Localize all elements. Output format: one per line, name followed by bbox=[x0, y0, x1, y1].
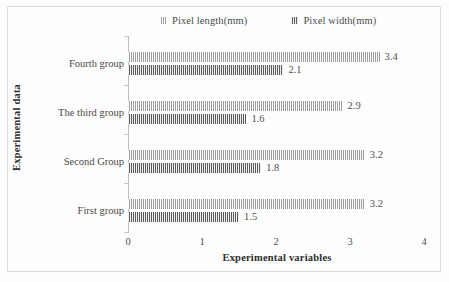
legend-item-pixel-width: Pixel width(mm) bbox=[291, 15, 376, 26]
legend-label-pixel-length: Pixel length(mm) bbox=[172, 15, 247, 26]
x-tick-label-0: 0 bbox=[125, 236, 130, 247]
legend-swatch-pixel-length bbox=[160, 17, 167, 24]
bar-width-third-group bbox=[128, 114, 246, 124]
bar-value-width-second-group: 1.8 bbox=[266, 163, 279, 173]
legend-label-pixel-width: Pixel width(mm) bbox=[303, 15, 376, 26]
category-label-second-group: Second Group bbox=[14, 156, 124, 167]
chart-figure: Pixel length(mm) Pixel width(mm) Experim… bbox=[0, 0, 449, 282]
bar-width-fourth-group bbox=[128, 65, 283, 75]
legend-item-pixel-length: Pixel length(mm) bbox=[160, 15, 247, 26]
bar-length-first-group bbox=[128, 199, 365, 209]
x-axis-title: Experimental variables bbox=[128, 252, 426, 263]
bar-value-length-second-group: 3.2 bbox=[370, 150, 383, 160]
bar-value-length-fourth-group: 3.4 bbox=[385, 52, 398, 62]
plot-area: 3.4 2.1 2.9 1.6 3.2 1.8 3.2 1.5 bbox=[128, 36, 426, 232]
chart-legend: Pixel length(mm) Pixel width(mm) bbox=[160, 12, 390, 28]
y-axis-category-labels: Fourth group The third group Second Grou… bbox=[12, 36, 124, 232]
bar-width-second-group bbox=[128, 163, 261, 173]
bar-length-third-group bbox=[128, 101, 343, 111]
x-tick-label-1: 1 bbox=[199, 236, 204, 247]
x-tick-label-4: 4 bbox=[421, 236, 426, 247]
category-label-fourth-group: Fourth group bbox=[14, 58, 124, 69]
bar-value-length-first-group: 3.2 bbox=[370, 199, 383, 209]
bar-length-fourth-group bbox=[128, 52, 380, 62]
bar-value-width-first-group: 1.5 bbox=[244, 212, 257, 222]
bar-width-first-group bbox=[128, 212, 239, 222]
bar-value-length-third-group: 2.9 bbox=[348, 101, 361, 111]
category-label-first-group: First group bbox=[14, 205, 124, 216]
bar-value-width-third-group: 1.6 bbox=[251, 114, 264, 124]
x-tick-label-2: 2 bbox=[273, 236, 278, 247]
y-axis-tick bbox=[124, 232, 128, 233]
category-label-third-group: The third group bbox=[14, 107, 124, 118]
x-tick-label-3: 3 bbox=[347, 236, 352, 247]
bar-length-second-group bbox=[128, 150, 365, 160]
bar-value-width-fourth-group: 2.1 bbox=[288, 65, 301, 75]
legend-swatch-pixel-width bbox=[291, 17, 298, 24]
